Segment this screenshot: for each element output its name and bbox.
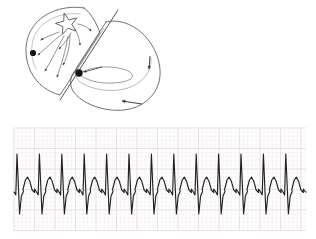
atrium-inner-wall bbox=[32, 14, 80, 69]
reentry-loop bbox=[80, 67, 132, 83]
ventricle-inner-cavity bbox=[76, 28, 151, 90]
ventricle-apex-arrow bbox=[122, 101, 142, 104]
heart-conduction-diagram bbox=[0, 0, 180, 120]
ventricle-outline bbox=[71, 21, 161, 110]
figure-root: Atrial tachycardia with rapid ventricula… bbox=[0, 0, 316, 239]
ecg-svg bbox=[0, 120, 316, 239]
reentry-arrow bbox=[84, 67, 102, 72]
av-node-dot bbox=[75, 69, 82, 76]
ecg-rhythm-strip bbox=[0, 120, 316, 239]
heart-diagram-svg bbox=[0, 0, 180, 120]
sa-node-dot bbox=[30, 50, 36, 56]
